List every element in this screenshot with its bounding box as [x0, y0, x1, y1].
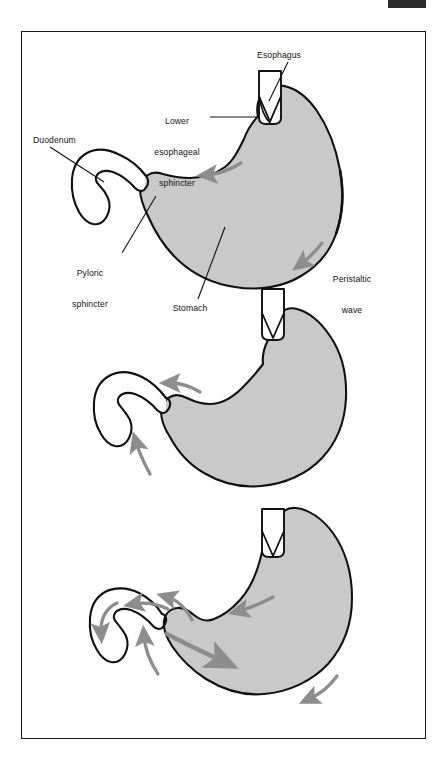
- figure-root: Esophagus Lower esophageal sphincter Duo…: [0, 0, 443, 765]
- label-line-1: Lower: [144, 116, 210, 126]
- label-stomach: Stomach: [160, 303, 220, 313]
- panel-3-illustration: [90, 508, 352, 699]
- label-lower-esophageal-sphincter: Lower esophageal sphincter: [144, 95, 210, 209]
- retropulsion-arrow-lower-panel-2: [136, 442, 150, 474]
- label-line-3: sphincter: [144, 178, 210, 188]
- label-peristaltic-wave: Peristaltic wave: [320, 253, 384, 336]
- label-duodenum: Duodenum: [33, 135, 103, 145]
- stomach-body-panel-2: [161, 308, 346, 486]
- retropulsion-arrow-up-panel-3: [144, 636, 158, 674]
- label-line-1: Pyloric: [58, 268, 122, 278]
- greater-curvature-arrow-panel-3: [309, 676, 337, 699]
- label-line-2: sphincter: [58, 299, 122, 309]
- anatomy-illustration: [0, 0, 443, 765]
- label-esophagus: Esophagus: [247, 50, 311, 60]
- duodenum-panel-1: [72, 150, 146, 224]
- panel-2-illustration: [94, 289, 346, 486]
- retropulsion-arrow-antrum-panel-2: [170, 383, 200, 392]
- duodenum-panel-2: [94, 372, 166, 446]
- label-line-2: esophageal: [144, 147, 210, 157]
- label-pyloric-sphincter: Pyloric sphincter: [58, 247, 122, 330]
- label-line-1: Peristaltic: [320, 274, 384, 284]
- stomach-body-panel-3: [164, 508, 352, 694]
- label-line-2: wave: [320, 305, 384, 315]
